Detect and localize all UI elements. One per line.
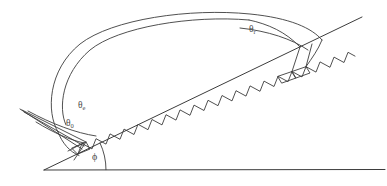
theta-symbol-receding: θ: [249, 24, 254, 34]
rear-contact-tangent-2: [292, 47, 300, 72]
tangent-line-extra-1: [20, 109, 82, 149]
theta-subscript-advancing: e: [83, 104, 86, 111]
label-receding-contact-angle: θr: [249, 25, 256, 35]
incline-line: [44, 17, 362, 170]
drop-outline: [51, 12, 322, 132]
baseline: [44, 170, 385, 171]
theta-subscript-receding: r: [254, 28, 256, 35]
figure-canvas: [0, 0, 387, 186]
drop-tail-inner: [249, 20, 300, 47]
sawtooth-profile: [78, 52, 355, 153]
rear-contact-tangent-1: [306, 44, 312, 67]
figure-drop-on-inclined-rough-surface: θe θ0 θr ϕ: [0, 0, 387, 186]
drop-inner-contour-front: [62, 19, 249, 125]
label-tilt-angle: ϕ: [92, 152, 97, 162]
theta-symbol-intrinsic: θ: [66, 118, 71, 128]
theta-symbol-advancing: θ: [78, 100, 83, 110]
tilt-angle-arc: [100, 143, 106, 170]
theta-subscript-intrinsic: 0: [71, 122, 74, 129]
rear-contact-wedge-2: [292, 67, 310, 78]
label-advancing-contact-angle: θe: [78, 101, 85, 111]
label-intrinsic-contact-angle: θ0: [66, 119, 74, 129]
tangent-line-advancing: [22, 110, 86, 142]
phi-symbol: ϕ: [92, 151, 97, 162]
